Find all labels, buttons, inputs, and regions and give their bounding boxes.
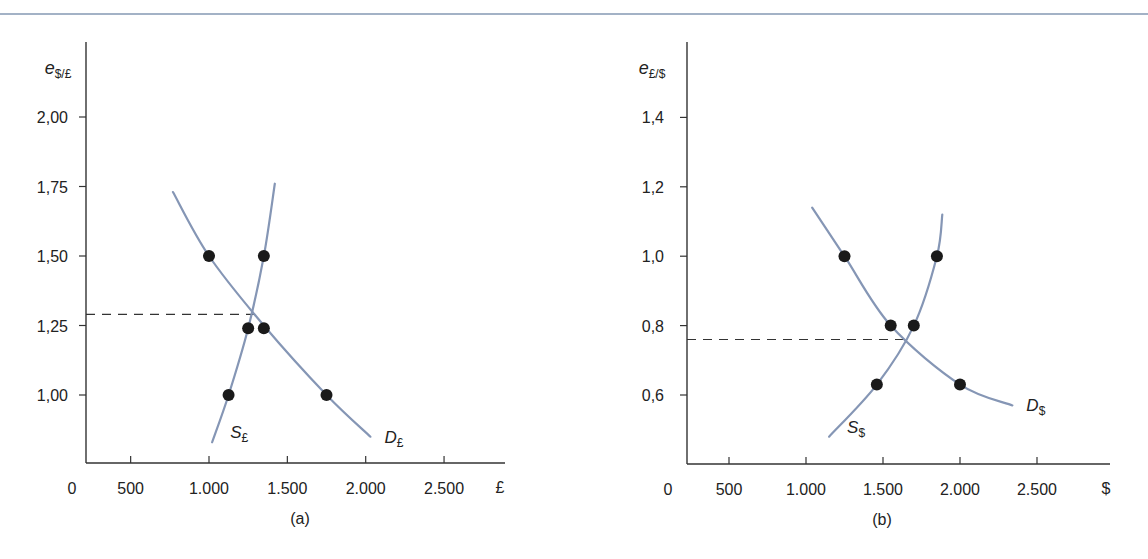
y-tick-label: 1,75 xyxy=(37,179,68,196)
x-tick-label: 1.000 xyxy=(189,480,229,497)
x-tick-label: 1.500 xyxy=(267,480,307,497)
demand-curve xyxy=(812,208,1012,406)
x-axis-unit-label: $ xyxy=(1102,480,1111,497)
supply-data-point xyxy=(223,389,235,401)
x-origin-label: 0 xyxy=(68,480,77,497)
exchange-rate-charts: e$/£1,001,251,501,752,005001.0001.5002.0… xyxy=(0,0,1148,559)
x-tick-label: 2.500 xyxy=(1017,481,1057,498)
y-tick-label: 1,25 xyxy=(37,318,68,335)
x-tick-label: 1.000 xyxy=(786,481,826,498)
demand-data-point xyxy=(321,389,333,401)
supply-data-point xyxy=(258,250,270,262)
supply-curve-label: S£ xyxy=(230,423,248,445)
supply-curve xyxy=(212,184,275,443)
x-tick-label: 500 xyxy=(117,480,144,497)
demand-data-point xyxy=(954,379,966,391)
x-origin-label: 0 xyxy=(664,481,673,498)
y-tick-label: 0,6 xyxy=(642,387,664,404)
supply-data-point xyxy=(871,379,883,391)
supply-data-point xyxy=(931,250,943,262)
demand-curve-label: D£ xyxy=(384,428,403,450)
demand-curve-label: D$ xyxy=(1026,396,1045,418)
x-tick-label: 2.000 xyxy=(940,481,980,498)
x-tick-label: 2.500 xyxy=(424,480,464,497)
supply-data-point xyxy=(908,320,920,332)
supply-curve-label: S$ xyxy=(847,418,865,440)
y-tick-label: 1,2 xyxy=(642,179,664,196)
panel-label: (b) xyxy=(872,511,892,528)
demand-data-point xyxy=(885,320,897,332)
demand-data-point xyxy=(203,250,215,262)
y-tick-label: 1,4 xyxy=(642,109,664,126)
x-tick-label: 2.000 xyxy=(346,480,386,497)
demand-data-point xyxy=(839,250,851,262)
y-tick-label: 0,8 xyxy=(642,318,664,335)
x-tick-label: 500 xyxy=(716,481,743,498)
y-tick-label: 1,00 xyxy=(37,387,68,404)
y-tick-label: 2,00 xyxy=(37,109,68,126)
supply-data-point xyxy=(242,322,254,334)
x-tick-label: 1.500 xyxy=(863,481,903,498)
y-axis-label: e$/£ xyxy=(45,58,72,81)
x-axis-unit-label: £ xyxy=(496,479,505,496)
demand-data-point xyxy=(258,322,270,334)
panel-label: (a) xyxy=(290,510,310,527)
y-tick-label: 1,50 xyxy=(37,248,68,265)
y-tick-label: 1,0 xyxy=(642,248,664,265)
y-axis-label: e£/$ xyxy=(639,58,666,81)
